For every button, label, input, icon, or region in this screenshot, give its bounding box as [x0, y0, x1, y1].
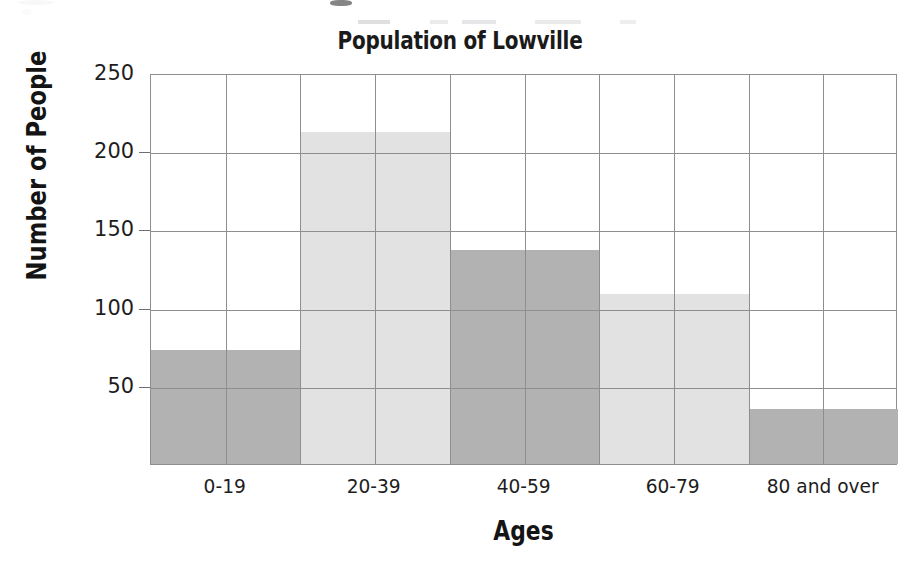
horizontal-gridline — [151, 231, 896, 232]
y-tick-label: 250 — [66, 60, 134, 85]
y-tick-mark — [139, 387, 150, 388]
vertical-gridline — [599, 75, 600, 464]
x-tick-label: 60-79 — [603, 474, 742, 498]
x-tick-label: 80 and over — [753, 474, 892, 498]
vertical-gridline — [525, 75, 526, 464]
vertical-gridline — [226, 75, 227, 464]
y-tick-mark — [139, 152, 150, 153]
scan-artifact — [330, 0, 352, 6]
scan-artifact — [462, 20, 496, 24]
vertical-gridline — [375, 75, 376, 464]
horizontal-gridline — [151, 310, 896, 311]
horizontal-gridline — [151, 153, 896, 154]
plot-area — [150, 74, 897, 465]
x-tick-label: 0-19 — [155, 474, 294, 498]
y-tick-label: 100 — [66, 295, 134, 320]
chart-page: Population of Lowville Number of People … — [0, 0, 920, 575]
scan-artifact — [22, 9, 32, 15]
x-axis-title: Ages — [210, 516, 837, 546]
x-tick-label: 40-59 — [454, 474, 593, 498]
vertical-gridline — [674, 75, 675, 464]
plot-inner — [151, 75, 896, 464]
scan-artifact — [620, 20, 636, 24]
scan-artifact — [358, 20, 390, 24]
y-tick-mark — [139, 309, 150, 310]
scan-artifact — [535, 20, 581, 24]
scan-artifact — [18, 0, 54, 5]
y-tick-label: 200 — [66, 138, 134, 163]
y-axis-title: Number of People — [21, 40, 52, 292]
y-tick-mark — [139, 230, 150, 231]
x-tick-label: 20-39 — [305, 474, 444, 498]
y-tick-label: 50 — [66, 373, 134, 398]
y-tick-label: 150 — [66, 216, 134, 241]
vertical-gridline — [450, 75, 451, 464]
vertical-gridline — [300, 75, 301, 464]
vertical-gridline — [823, 75, 824, 464]
chart-title: Population of Lowville — [92, 26, 828, 55]
vertical-gridline — [749, 75, 750, 464]
horizontal-gridline — [151, 388, 896, 389]
scan-artifact — [430, 20, 448, 24]
